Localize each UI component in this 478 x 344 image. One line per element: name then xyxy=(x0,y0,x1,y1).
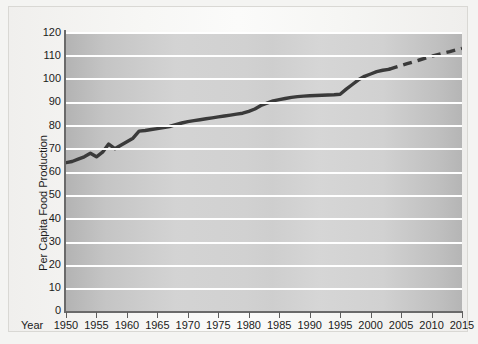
x-axis-line xyxy=(64,311,463,313)
y-tick-label-100: 100 xyxy=(31,73,61,84)
y-tick-label-20: 20 xyxy=(31,259,61,270)
x-tick-1970 xyxy=(188,312,189,318)
x-tick-label-2015: 2015 xyxy=(442,319,478,331)
gridline-10 xyxy=(66,288,462,290)
x-tick-2010 xyxy=(432,312,433,318)
gridline-70 xyxy=(66,148,462,150)
x-tick-1980 xyxy=(249,312,250,318)
x-tick-1995 xyxy=(340,312,341,318)
series-line-projection xyxy=(389,48,462,69)
x-tick-2015 xyxy=(462,312,463,318)
y-tick-label-110: 110 xyxy=(31,50,61,61)
plot-area xyxy=(66,32,462,312)
y-tick-label-30: 30 xyxy=(31,236,61,247)
y-tick-label-0: 0 xyxy=(31,305,61,316)
y-tick-label-40: 40 xyxy=(31,213,61,224)
x-tick-1950 xyxy=(66,312,67,318)
gridline-120 xyxy=(66,32,462,34)
y-tick-label-70: 70 xyxy=(31,143,61,154)
gridline-100 xyxy=(66,78,462,80)
y-tick-label-10: 10 xyxy=(31,282,61,293)
gridline-60 xyxy=(66,172,462,174)
x-tick-1960 xyxy=(127,312,128,318)
x-axis-title: Year xyxy=(21,319,43,331)
gridline-20 xyxy=(66,265,462,267)
gridline-90 xyxy=(66,102,462,104)
y-axis-line xyxy=(64,30,66,313)
gridline-30 xyxy=(66,242,462,244)
gridline-110 xyxy=(66,55,462,57)
gridline-50 xyxy=(66,195,462,197)
gridline-80 xyxy=(66,125,462,127)
x-tick-2000 xyxy=(371,312,372,318)
x-tick-1990 xyxy=(310,312,311,318)
chart-figure: Per Capita Food Production 120 110 100 9… xyxy=(0,0,478,344)
y-tick-label-group: 120 110 100 90 80 70 60 50 40 30 20 10 0 xyxy=(25,7,61,344)
chart-card: Per Capita Food Production 120 110 100 9… xyxy=(8,6,468,332)
y-tick-label-60: 60 xyxy=(31,166,61,177)
x-tick-1955 xyxy=(96,312,97,318)
x-tick-1985 xyxy=(279,312,280,318)
y-tick-label-50: 50 xyxy=(31,189,61,200)
y-tick-label-120: 120 xyxy=(31,27,61,38)
x-tick-1965 xyxy=(157,312,158,318)
y-tick-label-80: 80 xyxy=(31,120,61,131)
y-tick-label-90: 90 xyxy=(31,96,61,107)
x-tick-1975 xyxy=(218,312,219,318)
x-tick-2005 xyxy=(401,312,402,318)
gridline-40 xyxy=(66,218,462,220)
